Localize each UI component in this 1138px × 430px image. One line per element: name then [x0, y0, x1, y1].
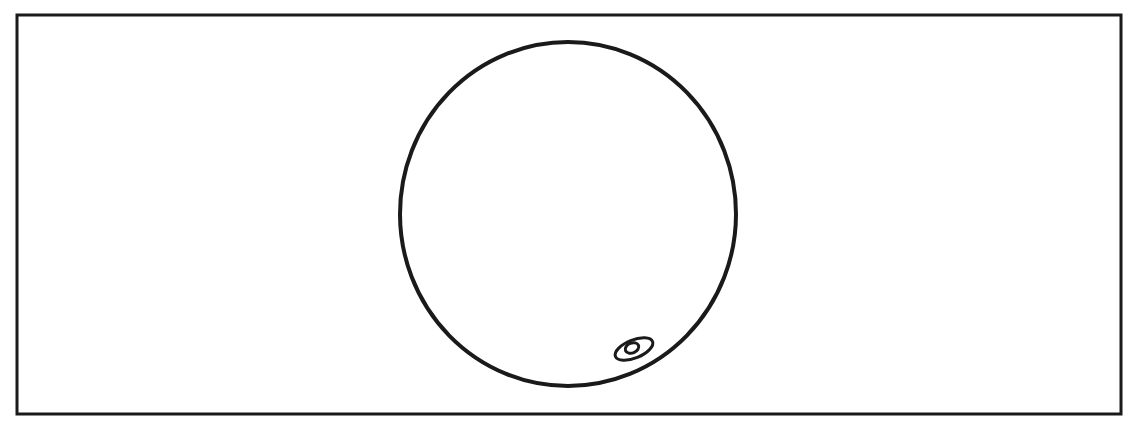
small-ellipse [612, 333, 656, 365]
frame-border [17, 15, 1121, 414]
diagram-canvas [0, 0, 1138, 430]
large-circle [400, 42, 736, 386]
